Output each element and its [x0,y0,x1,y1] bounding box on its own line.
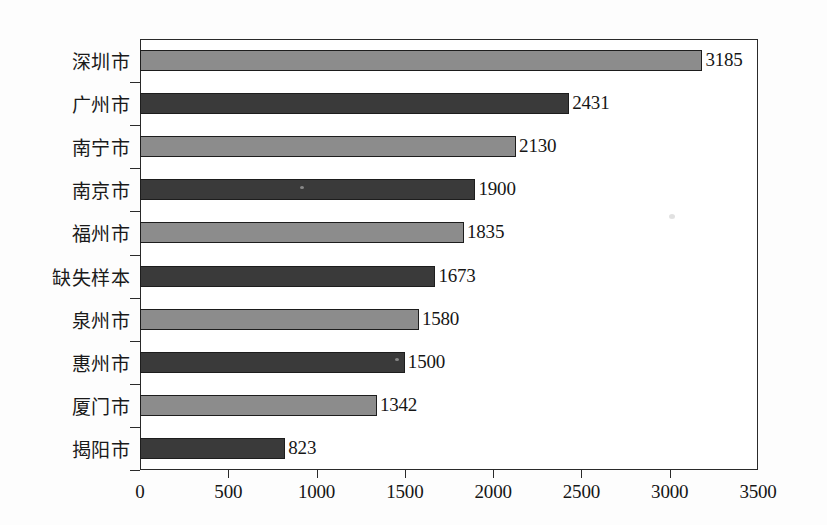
bar-value-label: 1900 [478,177,515,201]
category-label: 福州市 [72,211,131,254]
category-label: 揭阳市 [72,427,131,470]
category-label: 厦门市 [72,384,131,427]
x-axis-tick [581,470,582,478]
bar-row: 1342 [140,384,758,427]
bar-value-label: 1342 [380,393,417,417]
bar[interactable] [140,352,405,373]
bar-value-label: 1500 [408,350,445,374]
bar[interactable] [140,136,516,157]
bar-row: 823 [140,427,758,470]
bar-row: 1580 [140,298,758,341]
x-axis-tick-label: 1000 [298,480,335,504]
category-label: 泉州市 [72,298,131,341]
y-axis-tick [130,168,140,169]
bar[interactable] [140,266,435,287]
bar[interactable] [140,179,475,200]
y-axis-tick [130,384,140,385]
category-axis: 深圳市广州市南宁市南京市福州市缺失样本泉州市惠州市厦门市揭阳市 [0,39,136,470]
x-axis-tick [405,470,406,478]
x-axis-tick [228,470,229,478]
category-label: 广州市 [72,82,131,125]
category-label: 深圳市 [72,39,131,82]
y-axis-tick [130,470,140,471]
y-axis-tick [130,255,140,256]
x-axis-tick-label: 3000 [651,480,688,504]
x-axis-tick [493,470,494,478]
category-label: 南京市 [72,168,131,211]
y-axis-tick [130,211,140,212]
bar-row: 1900 [140,168,758,211]
x-axis-tick-label: 1500 [386,480,423,504]
x-axis-tick-label: 3500 [739,480,776,504]
bar[interactable] [140,309,419,330]
bar-row: 1500 [140,341,758,384]
y-axis-tick [130,125,140,126]
bar[interactable] [140,222,464,243]
bar-row: 2130 [140,125,758,168]
bar-value-label: 1835 [467,220,504,244]
category-label: 缺失样本 [52,255,130,298]
x-axis-tick-label: 500 [214,480,242,504]
bar-value-label: 1673 [438,264,475,288]
bar-row: 3185 [140,39,758,82]
bar-value-label: 2130 [519,134,556,158]
scan-speck [300,186,304,189]
bars-container: 318524312130190018351673158015001342823 [140,39,758,470]
scan-speck [669,214,675,219]
scan-speck [395,358,399,361]
bar-value-label: 1580 [422,307,459,331]
category-label: 惠州市 [72,341,131,384]
bar-row: 2431 [140,82,758,125]
bar-value-label: 2431 [572,91,609,115]
bar-value-label: 3185 [705,48,742,72]
bar-row: 1835 [140,211,758,254]
x-axis-tick-label: 2000 [475,480,512,504]
bar[interactable] [140,50,702,71]
bar[interactable] [140,438,285,459]
bar[interactable] [140,93,569,114]
bar-value-label: 823 [288,436,316,460]
y-axis-tick [130,298,140,299]
y-axis-tick [130,82,140,83]
x-axis-tick-label: 0 [135,480,144,504]
bar-row: 1673 [140,255,758,298]
chart-page: 深圳市广州市南宁市南京市福州市缺失样本泉州市惠州市厦门市揭阳市 31852431… [0,0,827,525]
bar[interactable] [140,395,377,416]
y-axis-tick [130,341,140,342]
x-axis-tick [670,470,671,478]
x-axis-tick-label: 2500 [563,480,600,504]
x-axis-tick [317,470,318,478]
y-axis-tick [130,427,140,428]
category-label: 南宁市 [72,125,131,168]
